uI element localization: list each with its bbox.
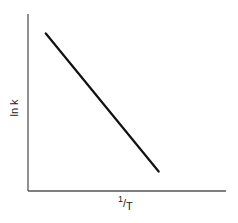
y-axis-label: ln k	[8, 96, 24, 120]
x-axis-label: 1/T	[118, 196, 133, 210]
data-line	[46, 33, 159, 171]
arrhenius-plot	[0, 0, 238, 223]
x-label-denominator: T	[126, 200, 133, 212]
x-label-numerator: 1	[118, 194, 123, 204]
